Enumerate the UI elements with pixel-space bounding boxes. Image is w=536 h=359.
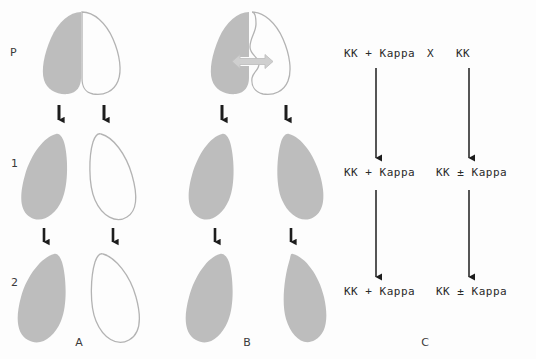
panel-c-g2-right-genotype-text: KK ± Kappa (436, 285, 507, 298)
panel-a-p-left-cell-filled (43, 12, 81, 94)
panel-a-arrows-1-to-2 (44, 228, 113, 242)
panel-c-g2-left-genotype: KK + Kappa (344, 286, 415, 297)
panel-b-g1-right-cell-filled (277, 134, 323, 220)
row-label-2: 2 (11, 277, 18, 288)
panel-label-b: B (237, 337, 257, 348)
panel-c-g2-right-genotype: KK ± Kappa (436, 286, 507, 297)
paramecium-kappa-inheritance-figure: P 1 2 KK + Kappa X KK KK + Kappa KK ± Ka… (0, 0, 536, 359)
panel-a-g2-left-cell-filled (18, 254, 66, 343)
panel-b-cytoplasmic-exchange-arrow (232, 55, 273, 69)
panel-c-p-left-genotype-text: KK + Kappa (344, 47, 415, 60)
row-label-1: 1 (11, 158, 18, 169)
panel-a-g1-left-cell-filled (21, 134, 67, 220)
panel-b-g1-left-cell-filled (189, 134, 234, 220)
panel-c-g1-left-genotype-text: KK + Kappa (344, 166, 415, 179)
panel-a-generation-2-cells (18, 254, 140, 343)
panel-c-p-right-genotype: KK (456, 48, 470, 59)
panel-label-c: C (415, 337, 435, 348)
panel-b-generation-p-cell-pair (211, 12, 290, 94)
panel-a-g1-right-cell-outline (90, 134, 136, 220)
panel-a-arrows-p-to-1 (59, 105, 104, 120)
panel-c-p-right-genotype-text: KK (456, 47, 470, 60)
panel-b-arrows-p-to-1 (222, 105, 286, 120)
panel-c-cross-symbol: X (427, 48, 434, 59)
panel-a-g2-right-cell-outline (91, 254, 139, 343)
panel-b-g2-right-cell-filled (284, 254, 327, 342)
panel-c-g2-left-genotype-text: KK + Kappa (344, 285, 415, 298)
panel-a-p-right-cell-outline (82, 12, 120, 94)
panel-b-p-left-cell-filled (211, 12, 249, 94)
row-label-p: P (10, 47, 17, 58)
panel-a-generation-p-cell-pair (43, 12, 120, 94)
panel-b-generation-2-cells (186, 254, 327, 343)
panel-b-g2-left-cell-filled (186, 254, 233, 343)
panel-b-p-right-cell-outline (250, 12, 290, 94)
panel-c-g1-right-genotype-text: KK ± Kappa (436, 166, 507, 179)
panel-label-a: A (69, 337, 89, 348)
panel-b-generation-1-cells (189, 134, 324, 220)
panel-c-p-left-genotype: KK + Kappa (344, 48, 415, 59)
panel-c-g1-right-genotype: KK ± Kappa (436, 167, 507, 178)
panel-b-arrows-1-to-2 (215, 228, 291, 242)
panel-c-g1-left-genotype: KK + Kappa (344, 167, 415, 178)
panel-a-generation-1-cells (21, 134, 135, 220)
